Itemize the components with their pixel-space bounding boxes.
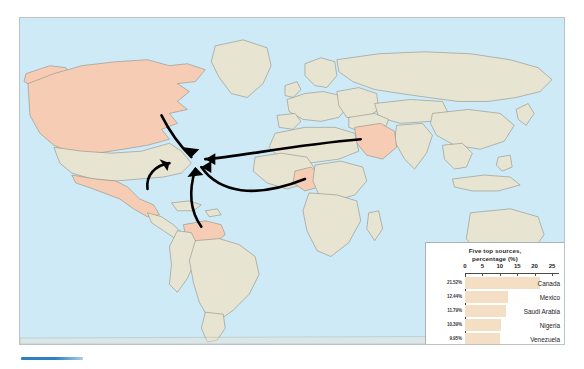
world-map-frame: Five top sources, percentage (%) 0510152…	[19, 17, 565, 345]
x-tick-mark	[465, 273, 466, 276]
bottom-blue-rule	[21, 357, 83, 360]
bar-row: 12.44%Mexico	[426, 290, 564, 304]
x-tick-label: 5	[481, 263, 484, 269]
bar-category-label: Mexico	[540, 294, 560, 301]
bar-rect	[465, 305, 506, 317]
x-axis-tick-labels: 0510152025	[426, 263, 564, 272]
bar-category-label: Venezuela	[530, 336, 560, 343]
legend-title-line1: Five top sources,	[426, 247, 564, 255]
bar-row: 11.79%Saudi Arabia	[426, 304, 564, 318]
x-tick-label: 25	[549, 263, 556, 269]
x-tick-label: 15	[514, 263, 521, 269]
legend-title-line2: percentage (%)	[426, 255, 564, 263]
x-tick-label: 20	[531, 263, 538, 269]
bar-value-label: 11.79%	[428, 308, 462, 313]
legend-title: Five top sources, percentage (%)	[426, 243, 564, 262]
bar-category-label: Saudi Arabia	[524, 308, 560, 315]
bar-value-label: 21.52%	[428, 280, 462, 285]
x-tick-mark	[535, 273, 536, 276]
bar-value-label: 10.39%	[428, 322, 462, 327]
bar-rect	[465, 291, 508, 303]
bar-category-label: Canada	[538, 280, 560, 287]
bar-category-label: Nigeria	[540, 322, 560, 329]
x-tick-label: 10	[496, 263, 503, 269]
x-axis-line	[465, 273, 559, 274]
x-tick-mark	[517, 273, 518, 276]
x-tick-mark	[552, 273, 553, 276]
bar-rect	[465, 319, 501, 331]
bar-row: 10.39%Nigeria	[426, 318, 564, 332]
bar-value-label: 12.44%	[428, 294, 462, 299]
x-tick-label: 0	[463, 263, 466, 269]
bar-row: 21.52%Canada	[426, 276, 564, 290]
x-tick-mark	[500, 273, 501, 276]
chart-area: 0510152025 21.52%Canada12.44%Mexico11.79…	[426, 263, 564, 345]
x-tick-mark	[482, 273, 483, 276]
legend-bar-chart-panel: Five top sources, percentage (%) 0510152…	[425, 242, 565, 345]
bar-value-label: 9.95%	[428, 336, 462, 341]
bar-series: 21.52%Canada12.44%Mexico11.79%Saudi Arab…	[426, 276, 564, 345]
bar-row: 9.95%Venezuela	[426, 332, 564, 345]
bar-rect	[465, 333, 500, 345]
bar-rect	[465, 277, 540, 289]
